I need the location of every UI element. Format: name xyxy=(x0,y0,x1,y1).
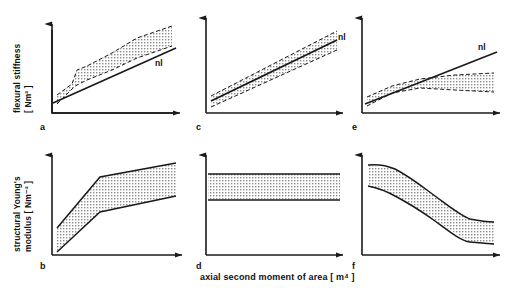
figure-panel-grid: nl nl nl xyxy=(0,0,514,290)
panel-e: nl xyxy=(362,18,500,113)
panel-a: nl xyxy=(52,24,180,113)
y-axis-label-bottom-units: modulus [ Nm⁻² ] xyxy=(23,176,34,252)
panel-d xyxy=(206,155,343,255)
y-axis-label-top: flexural stiffness [ Nm² ] xyxy=(12,44,34,113)
y-axis-label-bottom: structural Young's modulus [ Nm⁻² ] xyxy=(12,176,34,252)
panel-letter-b: b xyxy=(40,261,46,271)
panel-letter-c: c xyxy=(196,122,201,132)
panel-d-uncertainty-band xyxy=(208,174,340,200)
y-axis-label-bottom-text: structural Young's xyxy=(12,176,23,252)
panel-letter-f: f xyxy=(352,261,355,271)
y-axis-label-top-units: [ Nm² ] xyxy=(23,44,34,113)
panel-b xyxy=(52,155,182,255)
panel-c-nl-label: nl xyxy=(338,32,346,42)
panel-letter-d: d xyxy=(196,261,202,271)
panel-letter-a: a xyxy=(40,122,45,132)
panel-c: nl xyxy=(206,18,346,113)
panel-c-nl-line xyxy=(211,40,337,101)
panel-e-nl-label: nl xyxy=(478,42,486,52)
y-axis-label-top-text: flexural stiffness xyxy=(12,44,23,113)
panel-c-uncertainty-band xyxy=(211,31,337,107)
figure-canvas: nl nl nl xyxy=(0,0,514,290)
panel-f-uncertainty-band xyxy=(368,165,494,244)
panel-letter-e: e xyxy=(352,122,357,132)
panel-f xyxy=(362,155,500,255)
panel-a-nl-label: nl xyxy=(155,58,163,68)
x-axis-label: axial second moment of area [ m⁴ ] xyxy=(200,272,355,282)
